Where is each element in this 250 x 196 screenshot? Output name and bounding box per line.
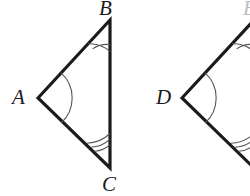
vertex-label-b: B xyxy=(99,0,112,19)
angle-mark-e xyxy=(232,44,250,52)
vertex-label-a: A xyxy=(12,87,25,108)
vertex-label-d: D xyxy=(156,87,171,108)
vertex-label-e: E xyxy=(243,0,250,19)
vertex-label-c: C xyxy=(102,174,116,195)
angle-mark-d xyxy=(205,73,216,123)
triangle-def xyxy=(182,20,250,168)
angle-mark-b xyxy=(88,44,110,52)
geometry-figure: A B C D E xyxy=(0,0,250,196)
geometry-canvas xyxy=(0,0,250,196)
triangle-abc xyxy=(38,20,110,168)
angle-mark-a xyxy=(61,73,72,123)
